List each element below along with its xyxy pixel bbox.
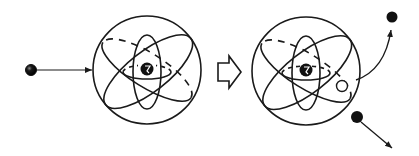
atom-nucleus [300,64,313,77]
electron-vacancy [337,81,348,92]
ejected-electron [387,12,398,23]
stage-before [26,16,204,124]
process-arrow [218,56,241,88]
stage-after [252,12,398,149]
ionization-diagram [0,0,419,156]
orbit-tilt-left [94,42,191,112]
atom-before [93,16,203,124]
incident-particle [26,65,37,76]
atom-nucleus [141,63,154,76]
orbit-tilt-left [253,43,350,113]
ejected-arrow [356,30,391,80]
scattered-arrow [361,122,392,148]
scattered-particle [351,111,363,123]
atom-after [252,17,362,125]
diagram-canvas [0,0,419,156]
